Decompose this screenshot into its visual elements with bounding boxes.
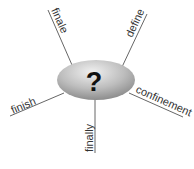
branch-label-confinement: confinement bbox=[134, 83, 194, 118]
word-spider-diagram: ? finale define confinement finish final… bbox=[0, 0, 194, 169]
branch-label-finish: finish bbox=[9, 95, 37, 116]
branch-label-finally: finally bbox=[83, 123, 95, 152]
diagram-canvas: ? finale define confinement finish final… bbox=[0, 0, 194, 169]
center-question-mark: ? bbox=[86, 67, 103, 97]
